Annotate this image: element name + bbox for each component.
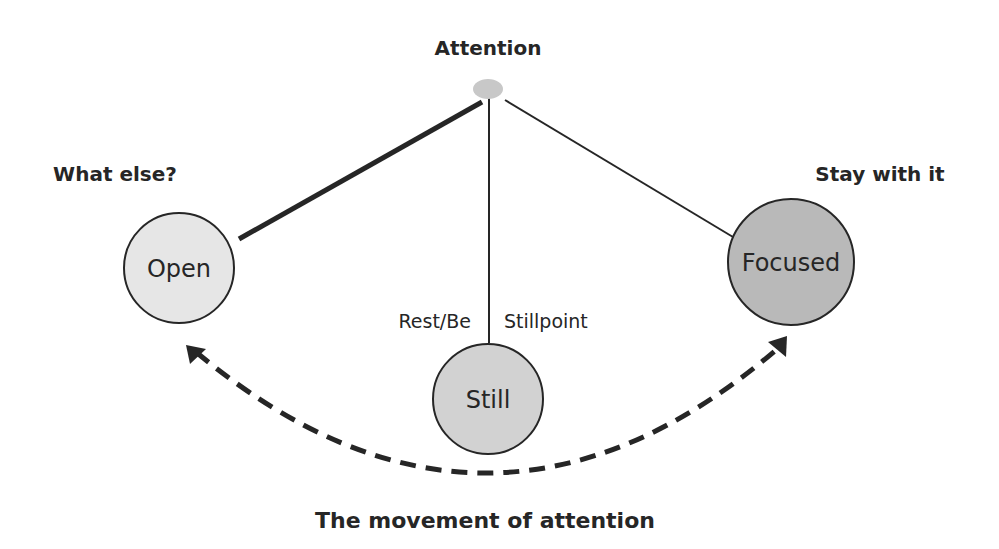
diagram-title: The movement of attention — [315, 508, 655, 533]
still-node-label: Still — [466, 386, 511, 414]
open-node: Open — [124, 213, 234, 323]
still-node: Still — [433, 344, 543, 454]
focused-node: Focused — [728, 199, 854, 325]
rest-be-label: Rest/Be — [398, 310, 471, 332]
focused-caption: Stay with it — [815, 162, 945, 186]
arrowhead-left-icon — [186, 345, 206, 364]
attention-apex-node — [473, 79, 503, 99]
edge-attention-open — [239, 102, 482, 239]
edge-attention-focused — [505, 100, 733, 237]
attention-diagram: Attention What else? Open Stay with it F… — [0, 0, 999, 549]
focused-node-label: Focused — [742, 249, 841, 277]
open-caption: What else? — [53, 162, 177, 186]
open-node-label: Open — [147, 255, 211, 283]
apex-label: Attention — [435, 36, 542, 60]
stillpoint-label: Stillpoint — [504, 310, 588, 332]
